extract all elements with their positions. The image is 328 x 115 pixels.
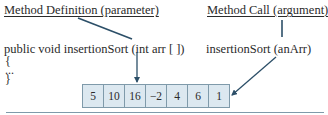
bottom-divider bbox=[6, 112, 324, 113]
array-cell: 6 bbox=[188, 85, 209, 107]
definition-pointer-line bbox=[78, 18, 132, 39]
array-cell: 4 bbox=[167, 85, 188, 107]
array-anArr: 5 10 16 −2 4 6 1 bbox=[82, 84, 230, 108]
array-cell: 1 bbox=[209, 85, 229, 107]
argument-arrow bbox=[232, 57, 276, 95]
array-cell: −2 bbox=[146, 85, 167, 107]
array-cell: 5 bbox=[83, 85, 104, 107]
array-cell: 10 bbox=[104, 85, 125, 107]
array-cell: 16 bbox=[125, 85, 146, 107]
